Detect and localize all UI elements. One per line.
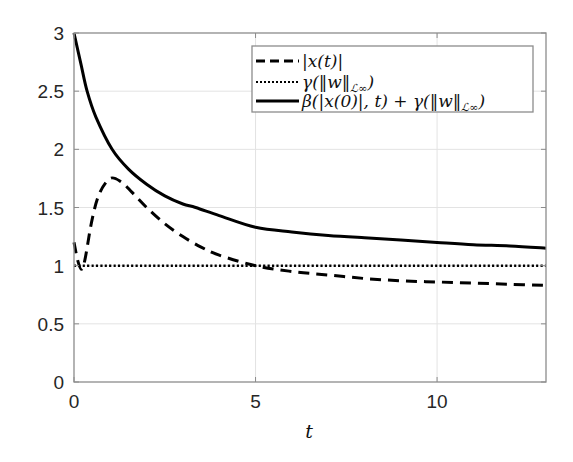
series-line-dashed: [74, 178, 546, 286]
x-tick-label: 5: [250, 391, 261, 412]
y-tick-label: 2.5: [38, 81, 64, 102]
y-tick-label: 3: [53, 23, 64, 44]
line-chart: 00.511.522.530510 t |x(t)|γ(‖w‖ℒ∞)β(|x(0…: [0, 0, 573, 462]
x-axis-label: t: [305, 420, 313, 442]
legend-label: |x(t)|: [302, 51, 343, 71]
x-tick-label: 0: [69, 391, 80, 412]
legend-label: β(|x(0)|, t) + γ(‖w‖ℒ∞): [301, 91, 485, 114]
y-tick-label: 1.5: [38, 198, 64, 219]
y-tick-label: 0.5: [38, 314, 64, 335]
y-tick-label: 0: [53, 372, 64, 393]
y-tick-label: 1: [53, 256, 64, 277]
y-tick-label: 2: [53, 139, 64, 160]
legend: |x(t)|γ(‖w‖ℒ∞)β(|x(0)|, t) + γ(‖w‖ℒ∞): [252, 46, 533, 114]
x-tick-label: 10: [427, 391, 448, 412]
